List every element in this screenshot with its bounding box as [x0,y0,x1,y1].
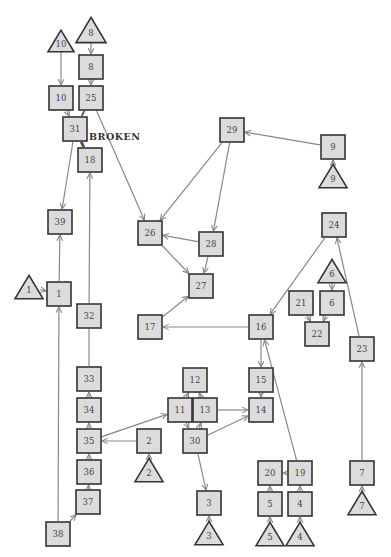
node-label: 33 [84,374,95,384]
square-node-5[interactable]: 5 [258,492,282,516]
square-node-4[interactable]: 4 [288,492,312,516]
square-node-6[interactable]: 6 [320,291,344,315]
triangle-node-10[interactable]: 10 [48,30,74,52]
node-label: 28 [206,239,217,249]
square-node-22[interactable]: 22 [305,322,329,346]
node-label: 4 [297,499,302,509]
node-label: 36 [84,467,95,477]
edge-1-38 [58,307,59,521]
node-label: 5 [267,499,272,509]
triangle-node-8[interactable]: 8 [76,17,106,42]
edge-25-26 [97,111,145,220]
node-label: 1 [56,289,61,299]
square-node-19[interactable]: 19 [288,461,312,485]
node-label: 2 [146,468,151,478]
square-node-17[interactable]: 17 [138,315,162,339]
square-node-3[interactable]: 3 [197,491,221,515]
node-label: 16 [256,322,267,332]
node-label: 32 [84,311,95,321]
triangle-node-6[interactable]: 6 [318,259,346,282]
node-label: 26 [145,228,156,238]
node-label: 7 [359,468,364,478]
node-label: 30 [190,436,201,446]
node-label: 39 [55,217,66,227]
edge-11-30 [186,423,189,428]
node-label: 5 [267,532,272,542]
square-node-11[interactable]: 11 [168,398,192,422]
node-label: 27 [196,281,207,291]
node-label: 10 [56,39,67,49]
square-node-30[interactable]: 30 [183,429,207,453]
triangle-node-3[interactable]: 3 [195,521,223,544]
square-node-25[interactable]: 25 [79,86,103,110]
square-node-12[interactable]: 12 [183,368,207,392]
square-node-29[interactable]: 29 [220,118,244,142]
dependency-graph: 8810102531183911323334353637382226282717… [0,0,391,557]
square-node-9[interactable]: 9 [321,135,345,159]
node-label: 4 [297,532,302,542]
triangle-node-9[interactable]: 9 [319,164,347,187]
square-node-1[interactable]: 1 [47,282,71,306]
edge-29-28 [213,143,229,231]
square-node-27[interactable]: 27 [189,274,213,298]
triangle-node-1[interactable]: 1 [15,275,43,298]
square-node-28[interactable]: 28 [199,232,223,256]
square-node-13[interactable]: 13 [193,398,217,422]
edge-1-39 [59,235,60,281]
square-node-15[interactable]: 15 [249,368,273,392]
square-node-34[interactable]: 34 [77,398,101,422]
square-node-2[interactable]: 2 [137,429,161,453]
edge-6-22 [323,316,326,321]
edge-29-26 [160,143,222,220]
square-node-26[interactable]: 26 [138,221,162,245]
node-label: 3 [206,498,211,508]
square-node-10[interactable]: 10 [49,86,73,110]
square-node-24[interactable]: 24 [322,213,346,237]
edge-11-12 [186,393,188,397]
square-node-33[interactable]: 33 [77,367,101,391]
square-node-31[interactable]: 31 [63,117,87,141]
triangle-node-2[interactable]: 2 [135,458,163,481]
triangle-node-4[interactable]: 4 [286,522,314,545]
square-node-35[interactable]: 35 [77,429,101,453]
square-node-37[interactable]: 37 [76,490,100,514]
square-node-14[interactable]: 14 [249,398,273,422]
node-label: 21 [296,298,307,308]
square-node-21[interactable]: 21 [289,291,313,315]
node-label: 12 [190,375,201,385]
square-node-23[interactable]: 23 [350,337,374,361]
node-label: 20 [265,468,276,478]
edge-28-26 [163,235,198,241]
node-label: 9 [330,174,335,184]
square-node-32[interactable]: 32 [77,304,101,328]
edge-28-27 [204,257,208,273]
node-label: 15 [256,375,267,385]
edge-T1-1 [40,289,46,290]
node-label: 34 [84,405,95,415]
edge-30-13 [199,423,201,428]
square-node-20[interactable]: 20 [258,461,282,485]
node-label: 3 [206,531,211,541]
square-node-8[interactable]: 8 [79,55,103,79]
node-label: 1 [26,285,31,295]
node-label: 17 [145,322,156,332]
node-label: 10 [56,93,67,103]
node-label: 31 [70,124,81,134]
square-node-36[interactable]: 36 [77,460,101,484]
square-node-7[interactable]: 7 [350,461,374,485]
square-node-18[interactable]: 18 [78,148,102,172]
edge-32-18 [89,173,90,303]
edge-23-24 [337,238,359,336]
edge-25-31 [82,111,85,116]
triangle-node-7[interactable]: 7 [348,491,376,514]
edge-10-31 [67,111,69,116]
square-node-38[interactable]: 38 [46,522,70,546]
broken-annotation: BROKEN [89,131,140,142]
square-node-16[interactable]: 16 [249,315,273,339]
square-node-39[interactable]: 39 [48,210,72,234]
edge-31-18 [81,142,84,147]
triangle-node-5[interactable]: 5 [256,522,284,545]
edge-31-39 [62,142,73,209]
node-label: 38 [53,529,64,539]
node-label: 29 [227,125,238,135]
